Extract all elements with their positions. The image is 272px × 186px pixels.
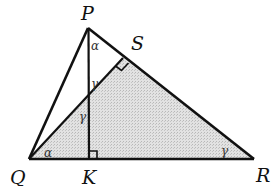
angle-gamma-r: γ [221,144,229,158]
angle-gamma-upper: γ [91,77,99,91]
label-s: S [131,32,144,54]
label-k: K [81,166,98,186]
label-q: Q [10,166,26,186]
label-r: R [255,164,270,186]
angle-alpha-q: α [44,146,52,160]
triangle-diagram: P S Q K R α γ γ α γ [0,0,272,186]
angle-gamma-lower: γ [79,110,87,124]
label-p: P [80,2,95,24]
angle-alpha-p: α [91,39,99,53]
